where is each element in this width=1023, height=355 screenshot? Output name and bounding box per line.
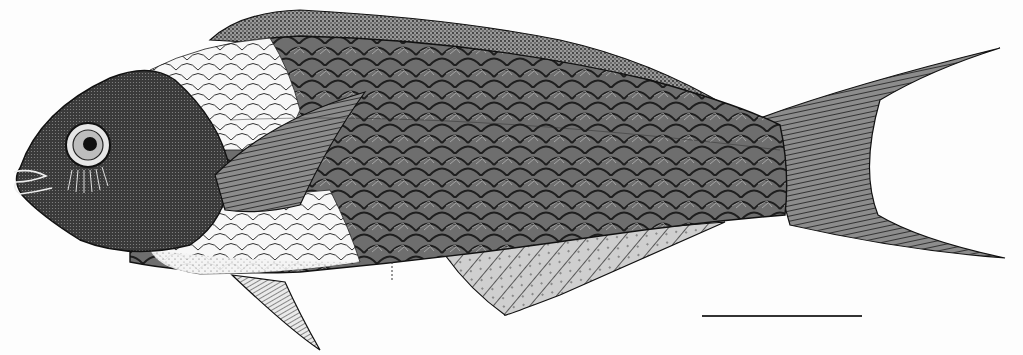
fish-drawing (0, 0, 1023, 355)
caudal-fin (760, 48, 1005, 258)
illustration-canvas (0, 0, 1023, 355)
pelvic-fin (232, 275, 320, 350)
